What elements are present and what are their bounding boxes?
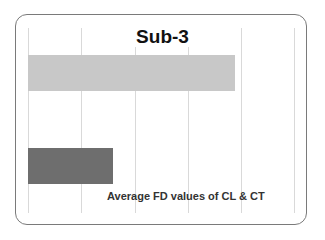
x-axis-label: Average FD values of CL & CT <box>107 189 265 203</box>
gridline <box>241 28 242 213</box>
bar-dark <box>28 148 113 184</box>
gridline <box>294 28 295 213</box>
chart-title-text: Sub-3 <box>134 26 191 47</box>
bar-light <box>28 55 235 91</box>
plot-area <box>28 28 295 213</box>
chart-title: Sub-3 <box>0 26 325 48</box>
